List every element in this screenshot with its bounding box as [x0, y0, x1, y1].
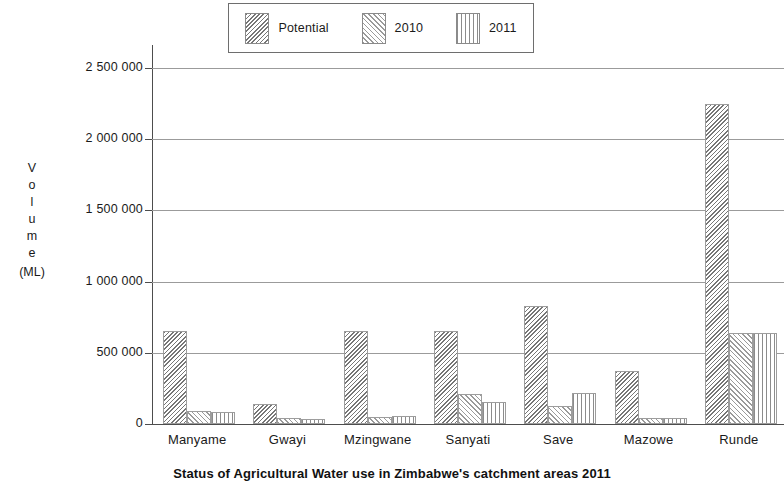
bar-gwayi-2011 — [301, 419, 325, 424]
bar-manyame-potential — [163, 331, 187, 424]
y-axis-tick-label: 0 — [136, 416, 143, 430]
y-axis-tick-mark — [145, 68, 152, 69]
legend-swatch-potential-icon — [245, 13, 269, 44]
bar-mazowe-2011 — [663, 418, 687, 424]
bar-gwayi-2010 — [277, 418, 301, 424]
y-axis-tick-mark — [145, 210, 152, 211]
y-axis-tick-labels: 0500 0001 000 0001 500 0002 000 0002 500… — [0, 0, 143, 493]
plot-area — [152, 45, 784, 424]
bar-save-2011 — [572, 393, 596, 424]
legend-entry-2010: 2010 — [362, 13, 424, 44]
x-axis-tick-label: Save — [513, 432, 603, 447]
gridline — [152, 210, 784, 211]
x-axis-tick-label: Runde — [694, 432, 784, 447]
bar-save-potential — [524, 306, 548, 424]
y-axis-tick-label: 1 500 000 — [86, 202, 143, 216]
bar-mzingwane-2011 — [392, 416, 416, 424]
bar-manyame-2011 — [211, 412, 235, 424]
legend-entry-2011: 2011 — [456, 13, 517, 44]
bar-gwayi-potential — [253, 404, 277, 424]
gridline — [152, 282, 784, 283]
bar-manyame-2010 — [187, 411, 211, 424]
x-axis-tick-label: Mzingwane — [333, 432, 423, 447]
bar-mazowe-potential — [615, 371, 639, 424]
legend-label-2011: 2011 — [489, 21, 517, 35]
bar-sanyati-potential — [434, 331, 458, 424]
x-axis-line — [152, 424, 784, 425]
y-axis-tick-mark — [145, 139, 152, 140]
legend-label-potential: Potential — [278, 21, 328, 35]
legend-label-2010: 2010 — [395, 21, 424, 35]
legend-swatch-2011-icon — [456, 13, 480, 44]
y-axis-tick-label: 1 000 000 — [86, 274, 143, 288]
x-axis-tick-label: Gwayi — [242, 432, 332, 447]
bar-runde-2010 — [729, 333, 753, 424]
gridline — [152, 68, 784, 69]
bar-mzingwane-2010 — [368, 417, 392, 424]
bar-runde-potential — [705, 104, 729, 424]
y-axis-tick-mark — [145, 353, 152, 354]
y-axis-tick-label: 2 000 000 — [86, 131, 143, 145]
bar-mazowe-2010 — [639, 418, 663, 424]
legend-entry-potential: Potential — [245, 13, 328, 44]
gridline — [152, 353, 784, 354]
y-axis-tick-label: 2 500 000 — [86, 60, 143, 74]
bar-save-2010 — [548, 406, 572, 424]
y-axis-tick-mark — [145, 282, 152, 283]
chart-legend: Potential 2010 2011 — [228, 3, 534, 53]
legend-swatch-2010-icon — [362, 13, 386, 44]
x-axis-tick-label: Mazowe — [603, 432, 693, 447]
y-axis-tick-mark — [145, 424, 152, 425]
y-axis-tick-label: 500 000 — [96, 345, 143, 359]
gridline — [152, 139, 784, 140]
bar-sanyati-2011 — [482, 402, 506, 424]
bar-mzingwane-potential — [344, 331, 368, 424]
x-axis-tick-label: Manyame — [152, 432, 242, 447]
chart-figure: Potential 2010 2011 V o l u m e (ML) 050… — [0, 0, 784, 493]
bar-runde-2011 — [753, 333, 777, 424]
chart-caption: Status of Agricultural Water use in Zimb… — [0, 466, 784, 481]
x-axis-tick-label: Sanyati — [423, 432, 513, 447]
bar-sanyati-2010 — [458, 394, 482, 424]
